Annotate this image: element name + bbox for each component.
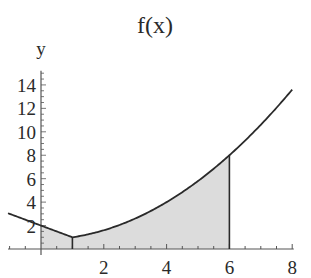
y-tick-label: 14 [17, 75, 37, 96]
y-tick-label: 4 [27, 192, 37, 213]
chart-svg: 24682468101214 f(x) y x [0, 0, 311, 278]
y-tick-label: 2 [27, 216, 37, 237]
y-tick-label: 10 [17, 122, 36, 143]
y-tick-label: 12 [17, 98, 36, 119]
x-tick-label: 8 [287, 257, 297, 278]
y-tick-label: 6 [27, 169, 37, 190]
chart-title: f(x) [137, 12, 173, 38]
y-tick-label: 8 [27, 145, 37, 166]
x-tick-label: 4 [162, 257, 172, 278]
shaded-area [41, 155, 229, 249]
x-tick-label: 6 [225, 257, 235, 278]
shaded-region [41, 155, 229, 249]
x-tick-label: 2 [99, 257, 109, 278]
y-axis-label: y [36, 38, 46, 59]
